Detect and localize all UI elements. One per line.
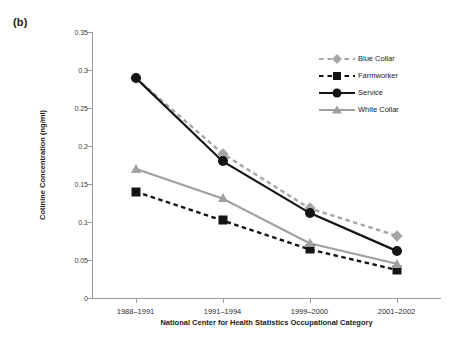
series-line [136,192,397,270]
data-point-marker [131,187,140,196]
x-tick-label: 2001–2002 [378,307,416,316]
legend: Blue CollarFarmworkerServiceWhite Collar [318,50,448,118]
legend-item-service: Service [318,84,448,101]
legend-item-farmworker: Farmworker [318,67,448,84]
legend-sample [318,52,356,66]
x-axis-line [92,298,441,299]
y-tick-label: 0.15 [74,181,88,188]
legend-label: Service [358,88,383,97]
data-point-marker [131,164,141,173]
data-point-marker [218,156,228,166]
data-point-marker [305,208,315,218]
figure-panel-b: (b) Cotinine Concentration (ng/ml) Natio… [0,0,451,341]
legend-label: White Collar [358,105,399,114]
legend-sample [318,86,356,100]
x-tick [310,298,311,303]
y-tick-label: 0.05 [74,257,88,264]
data-point-marker [392,246,402,256]
legend-sample [318,103,356,117]
legend-marker [332,105,342,113]
data-point-marker [131,73,141,83]
data-point-marker [392,259,402,268]
y-tick-label: 0 [84,295,88,302]
legend-item-blue-collar: Blue Collar [318,50,448,67]
x-tick-label: 1999–2000 [291,307,329,316]
legend-label: Blue Collar [358,54,395,63]
x-tick-label: 1991–1994 [204,307,242,316]
series-line [136,169,397,264]
x-axis-title: National Center for Health Statistics Oc… [92,318,441,327]
x-tick-label: 1988–1991 [117,307,155,316]
y-axis-title: Cotinine Concentration (ng/ml) [38,110,47,220]
legend-sample [318,69,356,83]
data-point-marker [305,238,315,247]
data-point-marker [218,216,227,225]
y-tick-label: 0.25 [74,105,88,112]
legend-item-white-collar: White Collar [318,101,448,118]
y-tick-label: 0.35 [74,29,88,36]
y-tick-label: 0.3 [78,67,88,74]
legend-marker [333,72,341,80]
legend-marker [333,88,342,97]
x-tick [223,298,224,303]
data-point-marker [218,193,228,202]
y-tick-label: 0.1 [78,219,88,226]
legend-label: Farmworker [358,71,398,80]
panel-label: (b) [13,16,28,28]
x-tick [397,298,398,303]
y-tick-label: 0.2 [78,143,88,150]
x-tick [136,298,137,303]
